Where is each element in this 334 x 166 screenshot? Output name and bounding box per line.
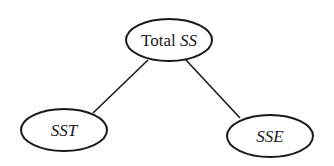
- ss-decomposition-diagram: Total SS SST SSE: [0, 0, 334, 166]
- node-total-ss: Total SS: [126, 19, 212, 61]
- edge-total-to-sse: [186, 60, 240, 118]
- node-sst-label: SST: [51, 121, 79, 140]
- edge-total-to-sst: [93, 60, 148, 113]
- node-sse-label: SSE: [256, 127, 284, 146]
- node-sse: SSE: [227, 115, 313, 157]
- node-total-ss-label: Total SS: [141, 31, 197, 50]
- edges: [93, 60, 240, 118]
- node-sst: SST: [21, 109, 107, 151]
